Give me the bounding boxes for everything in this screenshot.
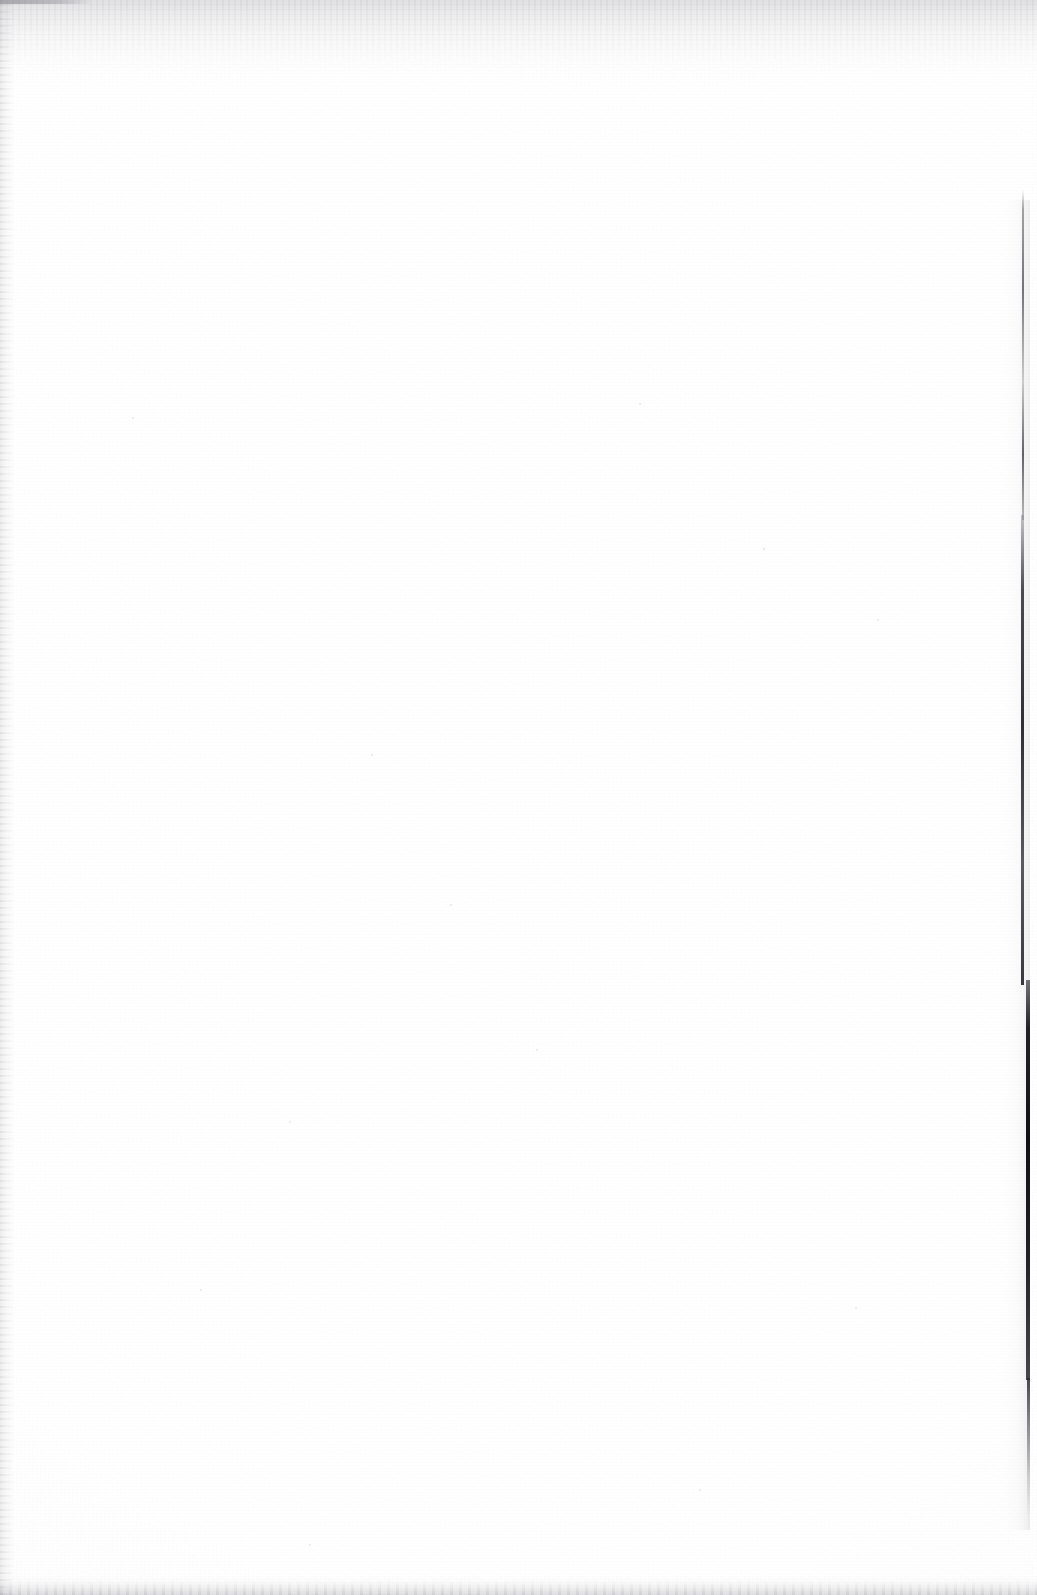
scan-speck: [855, 1307, 857, 1309]
scan-speck: [132, 417, 135, 420]
left-edge-shadow: [0, 0, 14, 1595]
bottom-edge-grain: [0, 1581, 1037, 1595]
scan-speck: [450, 904, 452, 906]
top-left-corner-mark: [0, 0, 92, 4]
scan-speck: [639, 403, 641, 405]
paper-grain-texture: [0, 0, 1037, 1595]
right-gutter-line-tail: [1027, 1378, 1030, 1538]
top-edge-shadow: [0, 0, 1037, 78]
bottom-edge-smudge: [0, 1575, 1037, 1595]
scanned-page: [0, 0, 1037, 1595]
scan-speck: [699, 1489, 701, 1491]
right-gutter-line-dark: [1026, 980, 1030, 1380]
right-gutter-halo: [1002, 200, 1030, 1530]
scan-speck: [877, 619, 879, 621]
scan-speck: [200, 1289, 203, 1292]
left-edge-grain: [0, 0, 16, 1595]
right-gutter-line-top: [1022, 190, 1024, 520]
scan-speck: [309, 1544, 311, 1546]
top-edge-grain: [0, 0, 1037, 70]
scan-speck: [371, 754, 373, 756]
scan-speck: [763, 548, 766, 551]
scan-speck: [289, 1121, 291, 1123]
paper-background: [0, 0, 1037, 1595]
right-gutter-line-mid: [1021, 515, 1024, 985]
scan-speck: [536, 1049, 538, 1051]
